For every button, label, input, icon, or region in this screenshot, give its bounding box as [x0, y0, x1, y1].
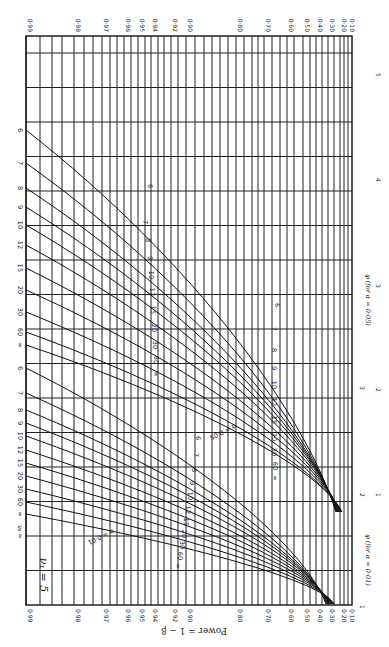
nu2-labels-left: 6789101215203060∞6789101215203060∞ν₂ = [16, 128, 24, 539]
inline-nu2-label: ∞ [152, 371, 160, 376]
power-tick-label: 0·92 [172, 19, 179, 33]
power-tick-label: 0·80 [237, 19, 244, 33]
inline-nu2-label: 9 [270, 366, 278, 370]
power-ticks-top: 0·990·980·970·960·950·940·920·900·800·70… [27, 19, 356, 33]
power-curve-alpha05 [26, 268, 340, 512]
power-tick-label: 0·70 [265, 19, 272, 33]
inline-nu2-label: 15 [182, 518, 190, 526]
nu2-label-alpha01: 9 [16, 421, 24, 425]
phi-alpha01-tick: 1 [359, 605, 366, 609]
power-curve-alpha05 [26, 345, 342, 512]
power-tick-label: 0·99 [27, 19, 34, 33]
nu2-label-alpha05: 30 [16, 308, 24, 316]
alpha01-label: α = 0·01 [86, 527, 115, 546]
inline-nu2-label: 8 [270, 348, 278, 352]
nu2-label-alpha01: 6 [16, 366, 24, 370]
nu2-prefix: ν₂ = [16, 525, 24, 539]
inline-nu2-label: 7 [141, 220, 149, 224]
phi-alpha01-title: φ (for α = 0·01) [364, 534, 372, 586]
inline-nu2-label: 6 [194, 436, 202, 440]
inline-nu2-label: 30 [270, 448, 278, 456]
nu2-label-alpha05: 20 [16, 286, 24, 294]
power-tick-label: 0·30 [329, 609, 336, 623]
inline-nu2-label: 12 [270, 398, 278, 406]
power-tick-label: 0·96 [125, 19, 132, 33]
power-tick-label: 0·30 [329, 19, 336, 33]
power-tick-label: 0·98 [75, 19, 82, 33]
power-tick-label: 0·98 [75, 609, 82, 623]
nu2-label-alpha05: 7 [16, 161, 24, 165]
nu2-label-alpha05: 10 [16, 221, 24, 229]
inline-nu2-label: 30 [151, 341, 159, 349]
power-tick-label: 0·92 [172, 609, 179, 623]
inline-nu2-label: 15 [270, 416, 278, 424]
inline-nu2-label: 20 [150, 324, 158, 332]
power-ticks-bottom: 0·990·980·970·960·950·940·920·900·800·70… [27, 609, 356, 623]
inline-nu2-label: 8 [190, 468, 198, 472]
power-curve-alpha05 [26, 290, 340, 512]
power-tick-label: 0·94 [152, 609, 159, 623]
power-curve-alpha01 [26, 410, 328, 604]
power-tick-label: 0·95 [139, 19, 146, 33]
power-axis-title: Power = 1 − β [161, 626, 227, 636]
inline-nu2-label: 15 [149, 306, 157, 314]
phi-alpha05-tick: 4 [375, 178, 382, 182]
inline-nu2-label: 60 [176, 552, 184, 560]
inline-nu2-label: ∞ [174, 563, 182, 568]
phi-alpha01-tick: 3 [359, 386, 366, 390]
phi-alpha05-tick: 3 [375, 284, 382, 288]
power-chart: 0·990·980·970·960·950·940·920·900·800·70… [0, 0, 389, 647]
inline-nu2-label: 6 [146, 184, 154, 188]
nu2-label-alpha05: 9 [16, 205, 24, 209]
inline-nu2-label: 10 [270, 381, 278, 389]
power-tick-label: 0·40 [317, 19, 324, 33]
power-tick-label: 0·50 [304, 19, 311, 33]
power-tick-label: 0·10 [349, 609, 356, 623]
inline-nu2-label: 20 [180, 530, 188, 538]
nu2-label-alpha01: 7 [16, 391, 24, 395]
power-tick-label: 0·90 [187, 19, 194, 33]
nu2-label-alpha05: 6 [16, 128, 24, 132]
power-tick-label: 0·80 [237, 609, 244, 623]
nu2-label-alpha01: 10 [16, 432, 24, 440]
phi-alpha05-tick: 2 [375, 388, 382, 392]
power-tick-label: 0·70 [265, 609, 272, 623]
inline-nu2-label: 10 [186, 492, 194, 500]
inline-nu2-label: 7 [270, 327, 278, 331]
power-tick-label: 0·97 [103, 609, 110, 623]
nu1-label: ν₁ = 5 [37, 558, 50, 592]
nu2-label-alpha01: ∞ [16, 511, 24, 516]
power-tick-label: 0·99 [27, 609, 34, 623]
nu2-label-alpha05: ∞ [16, 342, 24, 347]
nu2-label-alpha05: 8 [16, 186, 24, 190]
power-tick-label: 0·97 [103, 19, 110, 33]
inline-nu2-label: 12 [184, 506, 192, 514]
inline-nu2-label: 10 [147, 271, 155, 279]
nu2-label-alpha01: 30 [16, 485, 24, 493]
inline-nu2-label: 60 [152, 356, 160, 364]
phi-alpha05-title: φ (for α = 0·05) [364, 274, 372, 326]
inline-nu2-label: 8 [144, 238, 152, 242]
inline-nu2-label: 30 [178, 541, 186, 549]
power-tick-label: 0·60 [288, 19, 295, 33]
power-curve-alpha05 [26, 245, 339, 512]
phi-alpha05-tick: 1 [375, 493, 382, 497]
inline-nu2-label: ∞ [271, 475, 279, 480]
nu2-label-alpha01: 60 [16, 498, 24, 506]
power-tick-label: 0·94 [152, 19, 159, 33]
nu2-label-alpha05: 15 [16, 264, 24, 272]
nu2-label-alpha01: 8 [16, 408, 24, 412]
power-curve-alpha05 [26, 225, 338, 512]
power-tick-label: 0·95 [139, 609, 146, 623]
inline-nu2-label: 60 [271, 462, 279, 470]
nu2-label-alpha01: 12 [16, 446, 24, 454]
nu2-label-alpha05: 12 [16, 241, 24, 249]
power-curve-alpha05 [26, 207, 338, 512]
power-tick-label: 0·50 [304, 609, 311, 623]
inline-nu2-label: 9 [188, 481, 196, 485]
power-tick-label: 0·90 [187, 609, 194, 623]
inline-nu2-label: 12 [148, 288, 156, 296]
inline-nu2-label: 6 [273, 303, 281, 307]
inline-nu2-label: 20 [270, 433, 278, 441]
power-tick-label: 0·20 [341, 19, 348, 33]
